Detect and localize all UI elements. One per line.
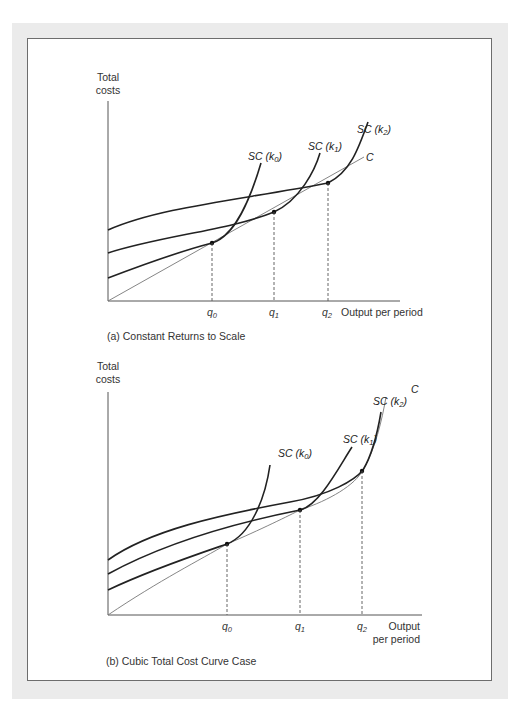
- panel-a-curve-SC-k2: [108, 122, 368, 230]
- panel-b-tick-q0: q0: [222, 620, 233, 634]
- panel-b-tick-q2: q2: [357, 620, 368, 634]
- panel-a-curve-SC-k0: [108, 163, 261, 278]
- panel-a-label-C: C: [366, 151, 374, 163]
- panel-b-label-C: C: [411, 383, 419, 395]
- panel-a-label-SC-k0: SC (k0): [248, 150, 282, 164]
- panel-b-curve-C: [108, 397, 386, 615]
- panel-b-x-axis-label-line1: Output: [388, 620, 420, 632]
- panel-a-tick-q1: q1: [269, 306, 279, 320]
- panel-b-label-SC-k0: SC (k0): [278, 447, 312, 461]
- panel-a-plot: q0 q1 q2 Output per period SC (k0) SC (k…: [108, 101, 423, 320]
- panel-b-tick-q1: q1: [295, 620, 305, 634]
- panel-b-x-axis-label-line2: per period: [373, 633, 420, 645]
- panel-b-plot: q0 q1 q2 Output per period SC (k0) SC (k…: [108, 383, 422, 645]
- panel-b-curve-SC-k1: [108, 447, 352, 574]
- cost-curves-diagram: q0 q1 q2 Output per period SC (k0) SC (k…: [0, 0, 514, 714]
- panel-a-curve-C: [108, 157, 364, 301]
- panel-a-x-axis-label: Output per period: [341, 306, 423, 318]
- panel-a-tick-q0: q0: [207, 306, 218, 320]
- panel-b-curve-SC-k2: [108, 412, 381, 560]
- panel-a-label-SC-k2: SC (k2): [357, 123, 391, 137]
- panel-a-label-SC-k1: SC (k1): [308, 140, 342, 154]
- panel-b-label-SC-k2: SC (k2): [373, 395, 407, 409]
- panel-b-label-SC-k1: SC (k1): [343, 433, 377, 447]
- panel-b-curve-SC-k0: [108, 465, 270, 590]
- panel-a-tick-q2: q2: [322, 306, 333, 320]
